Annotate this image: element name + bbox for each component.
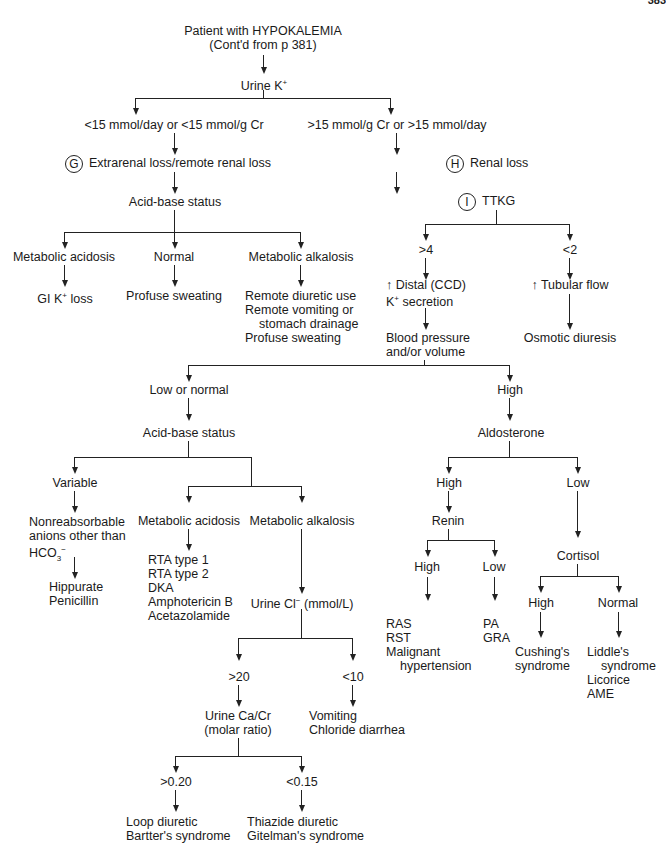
- profuse-sweating-alkalosis: Profuse sweating: [245, 331, 358, 345]
- connector: [188, 441, 189, 458]
- connector: [540, 576, 619, 577]
- arrow-down-icon: [186, 544, 192, 551]
- cortisol-high-results: Cushing's syndrome: [515, 645, 570, 673]
- ca-cr-gt020: >0.20: [160, 775, 192, 789]
- arrow-down-icon: [236, 700, 242, 707]
- arrow-down-icon: [62, 280, 68, 287]
- ttkg-gt4: >4: [419, 243, 433, 257]
- arrow-down-icon: [173, 766, 179, 773]
- arrow-down-icon: [173, 805, 179, 812]
- arrow-down-icon: [261, 67, 267, 74]
- dka: DKA: [148, 581, 233, 595]
- extrarenal-loss-label: Extrarenal loss/remote renal loss: [89, 156, 271, 170]
- metabolic-alkalosis-left: Metabolic alkalosis: [249, 250, 354, 264]
- low-or-normal: Low or normal: [149, 383, 228, 397]
- connector: [577, 491, 578, 533]
- hippurate: Hippurate: [49, 580, 103, 594]
- connector: [175, 756, 302, 757]
- arrow-down-icon: [172, 187, 178, 194]
- tubular-flow-node: ↑ Tubular flow: [531, 278, 608, 292]
- arrow-down-icon: [567, 234, 573, 241]
- gt020-results: Loop diuretic Bartter's syndrome: [126, 815, 231, 843]
- liddles: Liddle's: [587, 645, 656, 659]
- cortisol-normal: Normal: [598, 596, 638, 610]
- arrow-down-icon: [172, 280, 178, 287]
- arrow-down-icon: [492, 550, 498, 557]
- connector: [301, 609, 302, 638]
- connector: [577, 564, 578, 576]
- connector: [74, 457, 252, 458]
- osmotic-diuresis: Osmotic diuresis: [524, 331, 616, 345]
- connector: [618, 612, 619, 633]
- molar-ratio-label: (molar ratio): [204, 723, 271, 737]
- gitelmans-syndrome: Gitelman's syndrome: [247, 829, 364, 843]
- arrow-down-icon: [172, 242, 178, 249]
- connector: [427, 540, 495, 541]
- acid-base-status-low: Acid-base status: [143, 426, 235, 440]
- arrow-down-icon: [72, 467, 78, 474]
- lt015-results: Thiazide diuretic Gitelman's syndrome: [247, 815, 364, 843]
- left-threshold: <15 mmol/day or <15 mmol/g Cr: [84, 118, 263, 132]
- renal-loss-node: HRenal loss: [446, 155, 528, 173]
- penicillin: Penicillin: [49, 594, 103, 608]
- ttkg-node: ITTKG: [458, 193, 515, 211]
- cortisol-normal-results: Liddle's syndrome Licorice AME: [587, 645, 656, 701]
- arrow-down-icon: [567, 323, 573, 330]
- cushings-syndrome: syndrome: [515, 659, 570, 673]
- renin-high-results: RAS RST Malignant hypertension: [386, 617, 472, 673]
- nonreabsorbable-label: Nonreabsorbable: [29, 515, 126, 529]
- bartters-syndrome: Bartter's syndrome: [126, 829, 231, 843]
- connector: [238, 638, 353, 639]
- right-threshold: >15 mmol/g Cr or >15 mmol/day: [307, 118, 486, 132]
- arrow-down-icon: [616, 586, 622, 593]
- mmol-l-label: (mmol/L): [301, 597, 354, 611]
- arrow-down-icon: [425, 550, 431, 557]
- arrow-down-icon: [423, 323, 429, 330]
- urine-ca-cr-node: Urine Ca/Cr (molar ratio): [204, 709, 271, 737]
- distal-secretion-node: ↑ Distal (CCD) K+ secretion: [386, 278, 466, 309]
- arrow-down-icon: [538, 586, 544, 593]
- gi-k-loss: GI K+ loss: [37, 289, 92, 306]
- normal-left: Normal: [154, 250, 194, 264]
- arrow-down-icon: [350, 654, 356, 661]
- arrow-down-icon: [299, 766, 305, 773]
- urine-cl-text: Urine Cl: [251, 597, 296, 611]
- metabolic-acidosis-low: Metabolic acidosis: [138, 514, 240, 528]
- gi-k-loss-text: loss: [67, 292, 93, 306]
- page-number: 383: [648, 0, 666, 6]
- renin-low: Low: [483, 560, 506, 574]
- remote-diuretic-use: Remote diuretic use: [245, 289, 358, 303]
- rst: RST: [386, 631, 472, 645]
- connector: [188, 365, 510, 366]
- arrow-down-icon: [538, 631, 544, 638]
- variable: Variable: [53, 476, 98, 490]
- arrow-down-icon: [236, 654, 242, 661]
- acetazolamide: Acetazolamide: [148, 609, 233, 623]
- connector: [569, 294, 570, 325]
- lt10-results: Vomiting Chloride diarrhea: [309, 709, 405, 737]
- aldosterone-high: High: [436, 476, 462, 490]
- marker-g-icon: G: [65, 155, 83, 173]
- arrow-down-icon: [186, 414, 192, 421]
- stomach-drainage: stomach drainage: [245, 317, 358, 331]
- anions-label: anions other than: [29, 529, 126, 543]
- root-subtitle: (Cont'd from p 381): [184, 38, 342, 52]
- arrow-down-icon: [298, 242, 304, 249]
- arrow-down-icon: [575, 531, 581, 538]
- arrow-down-icon: [299, 496, 305, 503]
- extrarenal-loss-node: GExtrarenal loss/remote renal loss: [65, 155, 271, 173]
- remote-vomiting: Remote vomiting or: [245, 303, 358, 317]
- licorice: Licorice: [587, 673, 656, 687]
- renal-loss-label: Renal loss: [470, 156, 528, 170]
- aldosterone: Aldosterone: [478, 426, 545, 440]
- arrow-down-icon: [133, 108, 139, 115]
- blood-pressure-node: Blood pressure and/or volume: [386, 331, 470, 359]
- ras: RAS: [386, 617, 472, 631]
- ttkg-label: TTKG: [482, 194, 515, 208]
- tubular-flow-label: Tubular flow: [538, 278, 609, 292]
- urine-k-sup: +: [283, 78, 288, 87]
- arrow-down-icon: [423, 234, 429, 241]
- amphotericin-b: Amphotericin B: [148, 595, 233, 609]
- urine-ca-cr-label: Urine Ca/Cr: [204, 709, 271, 723]
- arrow-down-icon: [186, 375, 192, 382]
